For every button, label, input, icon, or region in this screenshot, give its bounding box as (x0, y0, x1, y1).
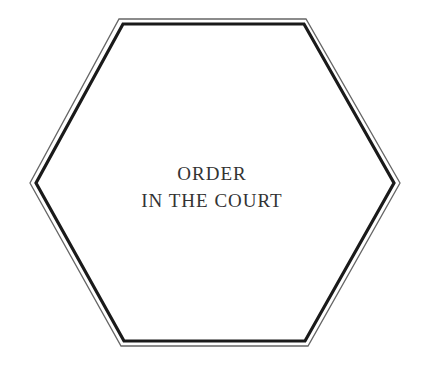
title-line-1: ORDER (0, 163, 424, 185)
title-line-2: IN THE COURT (0, 190, 424, 212)
card-canvas: ORDER IN THE COURT (0, 0, 424, 368)
